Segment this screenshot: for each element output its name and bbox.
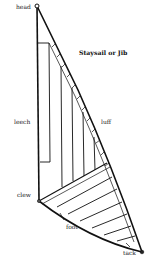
clew-ring-icon bbox=[37, 199, 40, 202]
label-foot: foot bbox=[66, 223, 78, 230]
vertical-panels bbox=[37, 43, 110, 204]
label-tack: tack bbox=[123, 249, 136, 256]
label-leech: leech bbox=[14, 118, 30, 125]
tack-ring-icon bbox=[140, 250, 144, 254]
staysail-diagram: Staysail or Jib head leech luff clew foo… bbox=[0, 0, 152, 261]
leech-edge bbox=[37, 6, 39, 201]
label-luff: luff bbox=[101, 118, 112, 125]
label-head: head bbox=[16, 3, 31, 10]
head-ring-icon bbox=[35, 4, 39, 8]
label-clew: clew bbox=[17, 191, 32, 198]
diagram-title: Staysail or Jib bbox=[79, 49, 128, 57]
